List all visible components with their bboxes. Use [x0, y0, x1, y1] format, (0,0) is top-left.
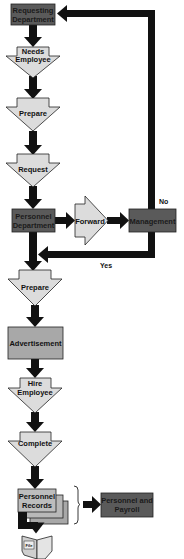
arrow-forward-to-management [107, 212, 129, 229]
arrow-request-to-personnel [24, 186, 42, 209]
personnel-department-line2: Department [13, 221, 55, 230]
no-feedback-connector [57, 5, 155, 210]
prepare-2-label: Prepare [21, 283, 49, 292]
arrow-advertisement-to-hire [26, 359, 44, 378]
arrow-prepare-to-request [24, 131, 42, 155]
file-label: File [26, 543, 34, 548]
requesting-department-line2: Department [12, 15, 54, 24]
arrow-prepare2-to-advertisement [26, 305, 44, 327]
node-personnel-and-payroll: Personnel and Payroll [101, 493, 153, 517]
arrow-hire-to-complete [26, 412, 44, 432]
file-right-panel [37, 536, 52, 559]
records-bracket [74, 486, 80, 524]
personnel-records-line2: Records [22, 501, 52, 510]
node-hire-employee: Hire Employee [8, 378, 62, 413]
node-prepare-2: Prepare [8, 270, 62, 306]
arrow-requesting-to-needs [24, 25, 42, 47]
personnel-payroll-line2: Payroll [114, 505, 139, 514]
personnel-records-line1: Personnel [19, 492, 55, 501]
node-management: Management [129, 209, 176, 232]
hire-employee-line2: Employee [17, 388, 52, 397]
personnel-department-line1: Personnel [15, 212, 51, 221]
arrow-complete-to-records [26, 466, 44, 489]
prepare-1-label: Prepare [19, 109, 47, 118]
node-file: File [22, 536, 52, 559]
node-prepare-1: Prepare [6, 98, 60, 131]
arrow-needs-to-prepare [24, 76, 42, 99]
edge-label-no: No [159, 198, 168, 205]
advertisement-label: Advertisement [9, 339, 62, 348]
flowchart: Requesting Department Needs Employee Pre… [0, 0, 184, 559]
node-forward: Forward [75, 196, 108, 245]
arrow-personnel-to-prepare2 [24, 232, 42, 271]
node-complete: Complete [8, 432, 62, 467]
node-needs-employee: Needs Employee [6, 47, 60, 78]
node-request: Request [6, 154, 60, 187]
node-personnel-department: Personnel Department [12, 209, 55, 232]
edge-label-yes: Yes [100, 262, 112, 269]
complete-label: Complete [18, 439, 52, 448]
node-requesting-department: Requesting Department [11, 4, 55, 25]
arrow-records-to-payroll [83, 496, 101, 513]
arrow-personnel-to-forward [55, 212, 75, 229]
forward-label: Forward [75, 217, 105, 226]
yes-connector [38, 231, 155, 263]
request-label: Request [18, 165, 48, 174]
personnel-payroll-line1: Personnel and [101, 496, 153, 505]
management-label: Management [130, 217, 176, 226]
node-advertisement: Advertisement [8, 327, 63, 359]
needs-employee-line2: Employee [15, 55, 50, 64]
